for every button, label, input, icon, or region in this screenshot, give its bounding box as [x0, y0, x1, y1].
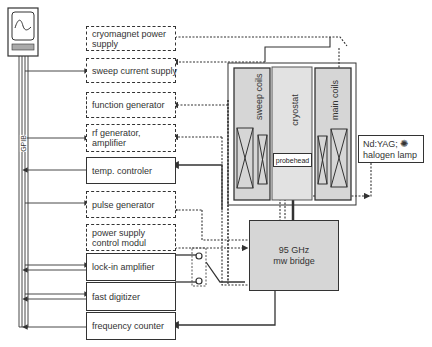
- gpib-bus: [19, 56, 28, 327]
- gpib-label: GPIB: [20, 135, 27, 152]
- light-burst-icon: ✺: [400, 138, 408, 149]
- lamp-label-2: halogen lamp: [363, 150, 417, 161]
- computer-icon: [8, 8, 38, 56]
- pulse-generator-box: pulse generator: [86, 191, 176, 218]
- power-supply-control-box: power supply control modul: [86, 224, 176, 251]
- temp-controller-box: temp. controler: [86, 157, 176, 184]
- rf-generator-box: rf generator, amplifier: [86, 124, 176, 152]
- bridge-label-2: mw bridge: [273, 256, 315, 267]
- frequency-counter-box: frequency counter: [86, 312, 176, 340]
- function-generator-box: function generator: [86, 92, 176, 118]
- switch-icon: [192, 248, 206, 286]
- box-label: sweep current supply: [92, 66, 177, 76]
- lamp-label-1: Nd:YAG; ✺: [363, 138, 408, 150]
- box-label: pulse generator: [92, 200, 155, 210]
- box-label: temp. controler: [92, 166, 152, 176]
- sweep-coils-label: sweep coils: [254, 80, 264, 120]
- box-label: cryomagnet power supply: [92, 29, 170, 49]
- bridge-label-1: 95 GHz: [279, 245, 310, 256]
- cryostat-label: cryostat: [290, 90, 300, 130]
- probehead-box: probehead: [273, 153, 312, 167]
- sweep-current-supply-box: sweep current supply: [86, 58, 176, 83]
- box-label: function generator: [92, 100, 165, 110]
- lock-in-amplifier-box: lock-in amplifier: [86, 253, 176, 281]
- box-label: lock-in amplifier: [92, 262, 155, 272]
- main-coils-label: main coils: [330, 80, 340, 120]
- box-label: frequency counter: [92, 321, 164, 331]
- box-label: power supply control modul: [92, 228, 170, 248]
- lamp-box: Nd:YAG; ✺ halogen lamp: [358, 135, 424, 163]
- box-label: fast digitizer: [92, 292, 140, 302]
- diagram-wiring: [0, 0, 432, 347]
- box-label: rf generator, amplifier: [92, 128, 170, 148]
- mw-bridge-box: 95 GHz mw bridge: [249, 220, 339, 291]
- cryomagnet-power-supply-box: cryomagnet power supply: [86, 26, 176, 51]
- fast-digitizer-box: fast digitizer: [86, 282, 176, 311]
